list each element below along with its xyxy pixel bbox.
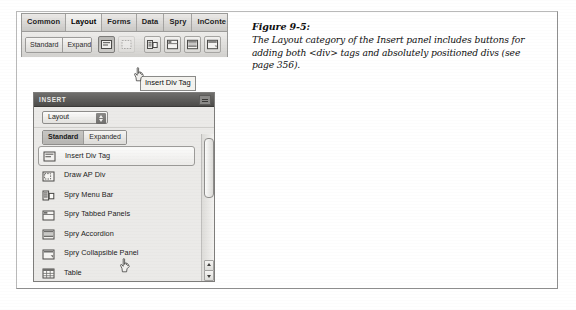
insert-bar-button-row: Standard Expanded [22, 32, 227, 57]
figure-page: Common Layout Forms Data Spry InConte St… [0, 0, 576, 310]
insert-panel-body: Layout Standard Expanded [34, 107, 214, 282]
list-item-insert-div-tag[interactable]: Insert Div Tag [38, 146, 195, 166]
draw-ap-div-icon [42, 169, 55, 182]
list-item-label: Spry Tabbed Panels [64, 208, 130, 220]
tab-common[interactable]: Common [22, 14, 66, 31]
spry-collapsible-panel-icon-button[interactable] [204, 36, 221, 53]
scrollbar-thumb[interactable] [204, 138, 214, 198]
panel-standard-label: Standard [48, 133, 78, 140]
spry-tabbed-panels-icon-button[interactable] [164, 36, 181, 53]
insert-bar: Common Layout Forms Data Spry InConte St… [21, 13, 228, 57]
list-item-spry-accordion[interactable]: Spry Accordion [34, 224, 201, 244]
spry-tabbed-panels-icon [42, 208, 55, 221]
insert-div-tag-icon [100, 38, 113, 51]
tab-common-label: Common [27, 17, 60, 26]
insert-panel-scrollbar[interactable] [201, 134, 214, 282]
tooltip-text: Insert Div Tag [145, 78, 191, 87]
panel-mode-toggle: Standard Expanded [42, 130, 127, 145]
spry-collapsible-panel-icon [206, 38, 219, 51]
panel-expanded-button[interactable]: Expanded [83, 131, 126, 144]
spry-collapsible-panel-icon [42, 247, 55, 260]
tab-incontext[interactable]: InConte [192, 14, 227, 31]
insert-bar-tab-strip: Common Layout Forms Data Spry InConte [22, 14, 227, 32]
list-item-label: Draw AP Div [64, 169, 105, 181]
tab-layout-label: Layout [71, 17, 96, 26]
bar-standard-label: Standard [30, 41, 58, 48]
spry-accordion-icon [42, 227, 55, 240]
panel-expanded-label: Expanded [89, 133, 121, 140]
list-item-spry-menu-bar[interactable]: Spry Menu Bar [34, 185, 201, 205]
category-select[interactable]: Layout [42, 111, 108, 124]
tab-spry[interactable]: Spry [164, 14, 192, 31]
panel-options-menu-icon[interactable] [199, 95, 211, 105]
insert-panel-list: Insert Div Tag Draw AP Div [34, 146, 201, 282]
list-item-label: Table [64, 267, 82, 279]
insert-div-tag-icon [43, 149, 56, 162]
spry-accordion-icon-button[interactable] [184, 36, 201, 53]
spry-tabbed-panels-icon [166, 38, 179, 51]
category-select-value: Layout [48, 111, 69, 123]
list-item-label: Spry Menu Bar [64, 189, 113, 201]
tab-forms[interactable]: Forms [102, 14, 136, 31]
spry-menu-bar-icon [146, 38, 159, 51]
tab-data[interactable]: Data [137, 14, 165, 31]
list-item-label: Spry Accordion [64, 228, 114, 240]
panel-standard-button[interactable]: Standard [43, 131, 83, 144]
bar-expanded-label: Expanded [67, 41, 92, 48]
insert-panel-header: INSERT [34, 93, 214, 107]
insert-div-tag-icon-button[interactable] [98, 36, 115, 53]
scroll-down-arrow-icon[interactable] [204, 270, 214, 281]
mouse-cursor-toolbar [133, 67, 146, 82]
tab-layout[interactable]: Layout [66, 14, 102, 31]
tab-forms-label: Forms [107, 17, 130, 26]
tab-spry-label: Spry [169, 17, 186, 26]
draw-ap-div-icon-button[interactable] [118, 36, 135, 53]
insert-panel: INSERT Layout Standard Expanded [33, 92, 215, 282]
insert-div-tag-tooltip: Insert Div Tag [140, 76, 196, 91]
figure-caption-body: The Layout category of the Insert panel … [252, 34, 542, 72]
insert-panel-title: INSERT [39, 94, 66, 106]
table-icon [42, 266, 55, 279]
tab-data-label: Data [142, 17, 159, 26]
tab-incontext-label: InConte [197, 17, 226, 26]
figure-caption: Figure 9-5: The Layout category of the I… [252, 21, 542, 72]
insert-panel-mode-row: Standard Expanded [34, 128, 214, 147]
list-item-table[interactable]: Table [34, 263, 201, 282]
draw-ap-div-icon [120, 38, 133, 51]
figure-caption-title: Figure 9-5: [252, 21, 542, 33]
chevron-updown-icon [96, 113, 106, 124]
bar-expanded-button[interactable]: Expanded [62, 38, 92, 52]
list-item-spry-tabbed-panels[interactable]: Spry Tabbed Panels [34, 205, 201, 225]
bar-mode-toggle: Standard Expanded [25, 37, 92, 53]
insert-panel-category-row: Layout [34, 107, 214, 128]
spry-menu-bar-icon [42, 188, 55, 201]
spry-accordion-icon [186, 38, 199, 51]
list-item-label: Insert Div Tag [65, 150, 110, 162]
mouse-cursor-list [119, 258, 132, 273]
list-item-spry-collapsible-panel[interactable]: Spry Collapsible Panel [34, 244, 201, 264]
spry-menu-bar-icon-button[interactable] [144, 36, 161, 53]
bar-standard-button[interactable]: Standard [26, 38, 62, 52]
list-item-draw-ap-div[interactable]: Draw AP Div [34, 166, 201, 186]
